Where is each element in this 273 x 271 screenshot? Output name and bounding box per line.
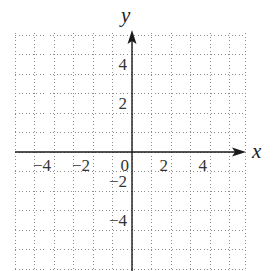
x-tick-label: −4	[33, 156, 52, 175]
y-tick-label: 4	[119, 55, 128, 74]
y-axis-title: y	[119, 3, 131, 27]
y-tick-labels: 42−2−4	[109, 55, 128, 230]
coordinate-plane: x y −4−2024 42−2−4	[0, 0, 273, 271]
x-tick-label: 2	[160, 156, 169, 175]
x-axis-title: x	[251, 139, 262, 163]
x-tick-label: 4	[199, 156, 208, 175]
axes	[15, 30, 246, 271]
y-tick-label: −2	[109, 172, 127, 191]
y-tick-label: −4	[109, 211, 128, 230]
y-tick-label: 2	[119, 94, 128, 113]
x-tick-label: −2	[72, 156, 90, 175]
